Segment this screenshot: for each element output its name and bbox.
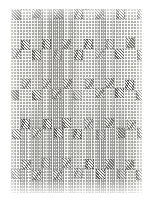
pattern-motif — [126, 38, 135, 48]
pattern-motif — [53, 170, 62, 180]
pattern-motif — [32, 50, 41, 60]
pattern-motif — [84, 39, 93, 49]
pattern-motif — [126, 120, 135, 130]
pattern-motif — [137, 9, 142, 19]
pattern-motif — [125, 160, 134, 170]
pattern-motif — [53, 49, 62, 59]
pattern-motif — [42, 78, 51, 88]
pattern-motif — [84, 119, 93, 129]
pattern-motif — [21, 9, 30, 10]
pattern-motif — [94, 88, 103, 98]
pattern-motif — [95, 9, 104, 19]
pattern-motif — [11, 168, 20, 178]
pattern-motif — [53, 9, 62, 19]
pattern-motif — [11, 129, 20, 139]
pattern-motif — [22, 160, 31, 170]
pattern-motif — [22, 78, 31, 88]
motif-grid — [11, 9, 142, 193]
pattern-motif — [116, 9, 125, 19]
pattern-motif — [83, 9, 92, 10]
pattern-motif — [74, 50, 83, 60]
pattern-motif — [62, 39, 71, 49]
pattern-motif — [52, 89, 61, 99]
pattern-motif — [115, 48, 124, 58]
pattern-motif — [11, 9, 20, 19]
pattern-motif — [32, 89, 41, 99]
pattern-motif — [62, 158, 71, 168]
pattern-motif — [41, 158, 50, 168]
pattern-motif — [136, 128, 142, 138]
pattern-motif — [73, 129, 82, 139]
pattern-motif — [116, 128, 125, 138]
page — [0, 0, 152, 203]
pattern-motif — [62, 118, 71, 128]
pattern-motif — [137, 49, 142, 59]
pattern-motif — [96, 130, 105, 140]
pattern-motif — [85, 79, 94, 89]
pattern-motif — [117, 169, 126, 179]
pattern-motif — [73, 90, 82, 100]
pattern-motif — [21, 119, 30, 129]
pattern-motif — [125, 80, 134, 90]
pattern-motif — [42, 119, 51, 129]
pattern-motif — [63, 79, 72, 89]
pattern-motif — [136, 90, 142, 100]
pattern-motif — [104, 39, 113, 49]
pattern-motif — [105, 159, 114, 169]
pattern-motif — [32, 9, 41, 18]
pattern-motif — [115, 88, 124, 98]
pattern-motif — [32, 128, 41, 138]
pattern-motif — [136, 169, 142, 179]
pattern-motif — [32, 170, 41, 180]
pattern-motif — [95, 49, 104, 59]
pattern-motif — [54, 128, 63, 138]
pattern-motif — [12, 48, 21, 58]
pattern-motif — [42, 39, 51, 49]
pattern-motif — [11, 89, 19, 99]
pattern-motif — [85, 159, 94, 169]
pattern-motif — [74, 168, 83, 178]
pattern-motif — [105, 78, 114, 88]
pattern-motif — [74, 9, 83, 19]
pattern-plate — [11, 9, 142, 193]
pattern-motif — [96, 169, 105, 179]
pattern-motif — [105, 118, 114, 128]
pattern-motif — [21, 40, 30, 50]
